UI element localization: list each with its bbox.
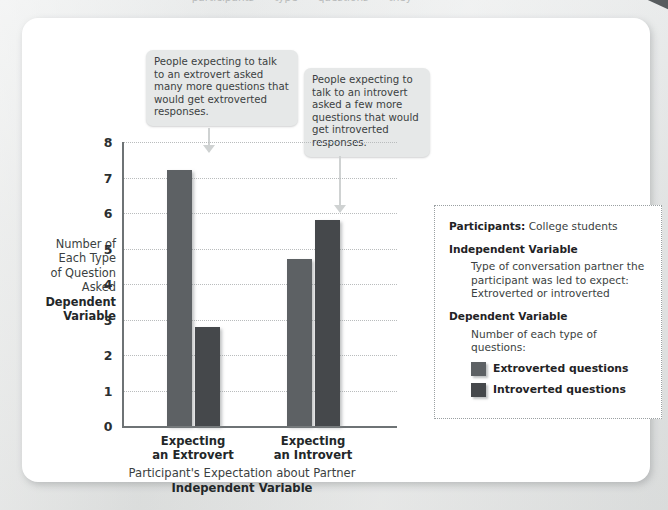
x-axis-category-line-1: Expecting — [138, 434, 248, 448]
study-info-box: Participants: College students Independe… — [434, 205, 662, 419]
y-axis-tick-label: 2 — [104, 348, 113, 363]
legend-swatch-icon-introverted — [471, 383, 486, 397]
cut-off-running-text: ···· participants ···· type ···· questio… — [175, 0, 595, 5]
gridline — [124, 213, 397, 214]
participants-label: Participants: — [449, 220, 525, 232]
callout-extrovert: People expecting to talk to an extrovert… — [146, 50, 298, 126]
y-axis-tick-label: 7 — [104, 170, 113, 185]
x-axis-category-label: Expecting an Extrovert — [138, 434, 248, 463]
bar-extroverted-0 — [167, 170, 192, 426]
legend-swatch-icon-extroverted — [471, 362, 486, 376]
x-axis-category-line-1: Expecting — [258, 434, 368, 448]
dependent-variable-text: Number of each type of questions: — [471, 328, 649, 355]
gridline — [124, 355, 397, 356]
gridline — [124, 142, 397, 143]
figure-card: People expecting to talk to an extrovert… — [22, 18, 650, 482]
y-axis-tick-label: 5 — [104, 241, 113, 256]
gridline — [124, 178, 397, 179]
x-axis-category-label: Expecting an Introvert — [258, 434, 368, 463]
x-axis-title: Participant's Expectation about Partner … — [82, 466, 402, 496]
participants-row: Participants: College students — [449, 220, 649, 234]
y-axis-variable-label: Dependent — [30, 295, 116, 309]
participants-value: College students — [529, 220, 618, 232]
y-axis-tick-label: 4 — [104, 277, 113, 292]
y-axis-tick-label: 3 — [104, 312, 113, 327]
x-axis-title-line: Participant's Expectation about Partner — [82, 466, 402, 481]
gridline — [124, 284, 397, 285]
legend-item-extroverted: Extroverted questions — [471, 362, 649, 376]
page-corner-triangle-icon — [626, 0, 668, 11]
independent-variable-text: Type of conversation partner the partici… — [471, 260, 649, 301]
y-axis-tick-label: 8 — [104, 135, 113, 150]
bar-introverted-0 — [195, 327, 220, 427]
gridline — [124, 320, 397, 321]
y-axis-tick-label: 1 — [104, 383, 113, 398]
x-axis-category-line-2: an Extrovert — [138, 448, 248, 462]
bar-chart-plot: 012345678 — [122, 142, 397, 428]
independent-variable-heading: Independent Variable — [449, 243, 649, 257]
legend-item-introverted: Introverted questions — [471, 383, 649, 397]
bar-introverted-1 — [315, 220, 340, 426]
gridline — [124, 249, 397, 250]
x-axis-category-line-2: an Introvert — [258, 448, 368, 462]
legend-label-extroverted: Extroverted questions — [493, 362, 628, 376]
x-axis-line — [122, 426, 397, 428]
x-axis-variable-label: Independent Variable — [82, 481, 402, 496]
gridline — [124, 391, 397, 392]
y-axis-tick-label: 6 — [104, 206, 113, 221]
dependent-variable-heading: Dependent Variable — [449, 310, 649, 324]
bar-extroverted-1 — [287, 259, 312, 426]
y-axis-tick-label: 0 — [104, 419, 113, 434]
legend-label-introverted: Introverted questions — [493, 383, 626, 397]
